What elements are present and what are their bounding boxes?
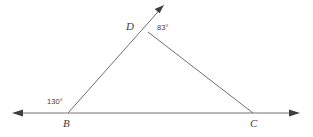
- vertex-label-C: C: [250, 118, 257, 129]
- angle-label-83-degrees: 83°: [157, 24, 169, 32]
- angle-label-130-degrees: 130°: [47, 98, 63, 106]
- ray-BD-extended: [68, 9, 161, 113]
- geometry-figure: D B C 130° 83°: [0, 0, 313, 137]
- segment-DC: [148, 32, 253, 113]
- vertex-label-B: B: [63, 118, 70, 129]
- vertex-label-D: D: [126, 21, 134, 32]
- ray-BD-arrowhead: [155, 5, 164, 13]
- geometry-canvas: [0, 0, 313, 137]
- baseline-left-arrowhead: [12, 110, 23, 117]
- baseline-right-arrowhead: [289, 110, 300, 117]
